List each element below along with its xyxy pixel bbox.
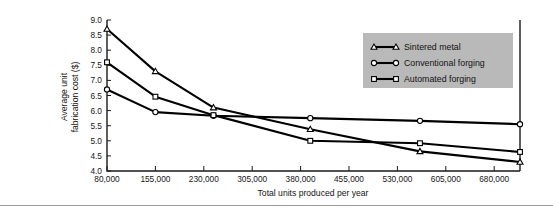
data-point-marker bbox=[418, 141, 423, 146]
legend-item-label: Conventional forging bbox=[404, 58, 485, 68]
chart-legend: Sintered metalConventional forgingAutoma… bbox=[363, 33, 513, 88]
y-axis-title-line2: fabrication cost ($) bbox=[70, 62, 80, 133]
chart-figure: Average unit fabrication cost ($) 4.04.5… bbox=[0, 0, 553, 218]
y-axis-title: Average unit fabrication cost ($) bbox=[59, 62, 80, 133]
data-point-marker bbox=[308, 116, 313, 121]
data-point-marker bbox=[308, 138, 313, 143]
x-tick-label: 230,000 bbox=[189, 174, 219, 184]
x-axis-ticks: 80,000155,000230,000305,000380,000455,00… bbox=[94, 166, 509, 184]
data-point-marker bbox=[153, 94, 158, 99]
y-axis-ticks: 4.04.55.05.56.06.57.07.58.08.59.0 bbox=[90, 15, 111, 176]
x-tick-label: 680,000 bbox=[479, 174, 509, 184]
y-tick-label: 6.0 bbox=[90, 106, 102, 116]
x-tick-label: 80,000 bbox=[94, 174, 120, 184]
data-point-marker bbox=[105, 60, 110, 65]
y-tick-label: 9.0 bbox=[90, 15, 102, 25]
y-tick-label: 8.5 bbox=[90, 30, 102, 40]
x-tick-label: 530,000 bbox=[382, 174, 412, 184]
y-tick-label: 5.0 bbox=[90, 136, 102, 146]
legend-marker-end bbox=[394, 77, 399, 82]
y-tick-label: 5.5 bbox=[90, 121, 102, 131]
y-tick-label: 6.5 bbox=[90, 91, 102, 101]
data-point-marker bbox=[104, 26, 110, 31]
data-point-marker bbox=[417, 118, 422, 123]
data-point-marker bbox=[104, 87, 109, 92]
y-tick-label: 4.5 bbox=[90, 151, 102, 161]
x-tick-label: 380,000 bbox=[286, 174, 316, 184]
legend-item-label: Sintered metal bbox=[404, 42, 461, 52]
legend-marker-start bbox=[371, 60, 376, 65]
x-axis-title: Total units produced per year bbox=[258, 188, 369, 198]
data-point-marker bbox=[417, 148, 423, 153]
legend-marker-start bbox=[372, 77, 377, 82]
x-tick-label: 455,000 bbox=[334, 174, 364, 184]
data-point-marker bbox=[153, 110, 158, 115]
bottom-divider-rule bbox=[0, 205, 553, 206]
x-tick-label: 605,000 bbox=[431, 174, 461, 184]
x-tick-label: 305,000 bbox=[237, 174, 267, 184]
series-line bbox=[107, 89, 520, 124]
data-point-marker bbox=[517, 159, 523, 164]
series-conventional-forging bbox=[104, 87, 522, 127]
legend-item-label: Automated forging bbox=[404, 74, 476, 84]
x-tick-label: 155,000 bbox=[140, 174, 170, 184]
data-point-marker bbox=[307, 126, 313, 131]
y-tick-label: 8.0 bbox=[90, 45, 102, 55]
y-tick-label: 7.0 bbox=[90, 75, 102, 85]
legend-marker-end bbox=[393, 60, 398, 65]
data-point-marker bbox=[211, 113, 216, 118]
data-point-marker bbox=[518, 150, 523, 155]
data-point-marker bbox=[517, 122, 522, 127]
y-axis-title-line1: Average unit bbox=[59, 72, 69, 121]
y-tick-label: 7.5 bbox=[90, 60, 102, 70]
line-chart: Average unit fabrication cost ($) 4.04.5… bbox=[0, 0, 553, 200]
